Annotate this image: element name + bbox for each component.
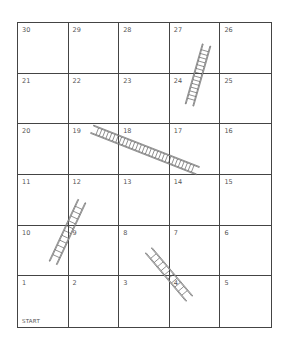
square-number: 21: [22, 77, 30, 85]
board-square-7: 7: [170, 226, 221, 277]
start-label: START: [22, 318, 40, 324]
board-square-19: 19: [69, 124, 120, 175]
square-number: 18: [123, 127, 131, 135]
square-number: 22: [73, 77, 81, 85]
board-square-6: 6: [220, 226, 271, 277]
board-square-21: 21: [18, 74, 69, 125]
board-square-16: 16: [220, 124, 271, 175]
square-number: 23: [123, 77, 131, 85]
board-square-2: 2: [69, 276, 120, 327]
square-number: 6: [224, 229, 228, 237]
square-number: 28: [123, 26, 131, 34]
board-square-18: 18: [119, 124, 170, 175]
square-number: 4: [174, 279, 178, 287]
board-square-17: 17: [170, 124, 221, 175]
square-number: 11: [22, 178, 30, 186]
square-number: 30: [22, 26, 30, 34]
board-square-10: 10: [18, 226, 69, 277]
square-number: 27: [174, 26, 182, 34]
square-number: 13: [123, 178, 131, 186]
board-square-5: 5: [220, 276, 271, 327]
board-square-29: 29: [69, 23, 120, 74]
board-square-3: 3: [119, 276, 170, 327]
square-number: 17: [174, 127, 182, 135]
board-square-23: 23: [119, 74, 170, 125]
board-square-22: 22: [69, 74, 120, 125]
square-number: 2: [73, 279, 77, 287]
board-square-9: 9: [69, 226, 120, 277]
square-number: 1: [22, 279, 26, 287]
board-square-25: 25: [220, 74, 271, 125]
board-square-14: 14: [170, 175, 221, 226]
square-number: 14: [174, 178, 182, 186]
board-square-24: 24: [170, 74, 221, 125]
square-number: 9: [73, 229, 77, 237]
square-number: 3: [123, 279, 127, 287]
board-square-20: 20: [18, 124, 69, 175]
board-square-13: 13: [119, 175, 170, 226]
square-number: 10: [22, 229, 30, 237]
board-square-1: 1START: [18, 276, 69, 327]
board-square-4: 4: [170, 276, 221, 327]
square-number: 24: [174, 77, 182, 85]
square-number: 15: [224, 178, 232, 186]
square-number: 20: [22, 127, 30, 135]
board-square-12: 12: [69, 175, 120, 226]
square-number: 25: [224, 77, 232, 85]
square-number: 29: [73, 26, 81, 34]
square-number: 26: [224, 26, 232, 34]
board-square-28: 28: [119, 23, 170, 74]
square-number: 19: [73, 127, 81, 135]
board-square-11: 11: [18, 175, 69, 226]
board-square-26: 26: [220, 23, 271, 74]
board-square-30: 30: [18, 23, 69, 74]
board-square-15: 15: [220, 175, 271, 226]
square-number: 16: [224, 127, 232, 135]
square-number: 5: [224, 279, 228, 287]
square-number: 7: [174, 229, 178, 237]
square-number: 12: [73, 178, 81, 186]
square-number: 8: [123, 229, 127, 237]
board-square-8: 8: [119, 226, 170, 277]
board-square-27: 27: [170, 23, 221, 74]
game-board: 3029282726212223242520191817161112131415…: [17, 22, 272, 328]
